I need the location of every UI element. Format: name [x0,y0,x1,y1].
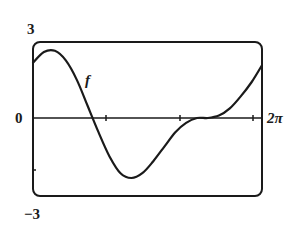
curve-f [33,50,262,178]
plot-frame [33,42,262,196]
y-label-top: 3 [27,22,35,37]
chart-canvas [0,0,298,228]
y-label-zero: 0 [15,111,23,126]
curve-label: f [85,73,90,88]
x-label-right: 2π [267,111,283,126]
y-label-bottom: −3 [24,207,40,222]
